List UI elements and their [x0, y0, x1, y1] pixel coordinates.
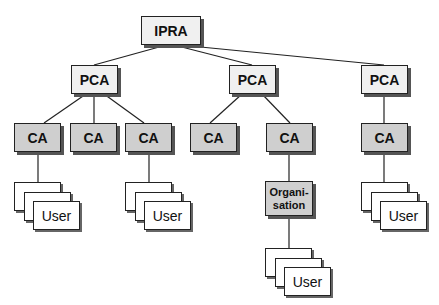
- ca-box-6: CA: [361, 123, 408, 152]
- pca-box-2: PCA: [229, 65, 276, 94]
- user-card-front: User: [33, 201, 80, 230]
- connector-lines: [0, 0, 439, 305]
- ca-box-1: CA: [14, 123, 61, 152]
- organisation-label-line1: Organi-: [269, 186, 308, 199]
- ipra-box: IPRA: [141, 16, 201, 45]
- organisation-box: Organi- sation: [265, 181, 313, 216]
- ca-box-4: CA: [190, 123, 237, 152]
- pca-box-3: PCA: [361, 65, 408, 94]
- pca-box-1: PCA: [71, 65, 118, 94]
- organisation-label-line2: sation: [273, 199, 305, 212]
- pki-hierarchy-diagram: IPRA PCA PCA PCA CA CA CA CA CA CA Organ…: [0, 0, 439, 305]
- ca-box-2: CA: [70, 123, 117, 152]
- user-card-front: User: [380, 201, 427, 230]
- user-card-front: User: [144, 201, 191, 230]
- user-card-front: User: [284, 267, 331, 296]
- ca-box-5: CA: [266, 123, 313, 152]
- ca-box-3: CA: [125, 123, 172, 152]
